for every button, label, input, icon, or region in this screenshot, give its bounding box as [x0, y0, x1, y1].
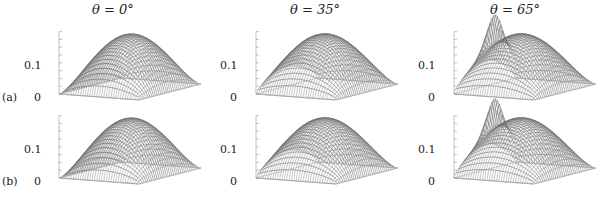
- row-label-a: (a): [2, 91, 17, 104]
- mesh-line-v: [505, 133, 585, 171]
- mesh-line-u: [456, 131, 518, 179]
- surface-plot-b1: [252, 98, 402, 192]
- mesh-line-u: [258, 145, 320, 178]
- tick-label-0.1-b1: 0.1: [220, 143, 238, 156]
- mesh-line-u: [503, 40, 565, 98]
- tick-label-0-b0: 0: [34, 175, 41, 188]
- mesh-line-v: [271, 52, 351, 97]
- surface-plot-a1: [252, 14, 402, 108]
- mesh-line-u: [256, 150, 318, 178]
- tick-label-0.1-a2: 0.1: [418, 59, 436, 72]
- surface-plot-b0: [55, 98, 205, 192]
- surface-plot-a0: [55, 14, 205, 108]
- tick-label-0-b1: 0: [230, 175, 237, 188]
- tick-label-0-a1: 0: [230, 91, 237, 104]
- mesh-line-v: [505, 49, 585, 87]
- tick-label-0.1-a0: 0.1: [24, 59, 42, 72]
- row-label-b: (b): [2, 175, 18, 188]
- tick-label-0-a0: 0: [34, 91, 41, 104]
- mesh-line-u: [503, 124, 565, 182]
- tick-label-0.1-b0: 0.1: [24, 143, 42, 156]
- surface-plot-a2: [450, 14, 600, 108]
- mesh-line-u: [456, 47, 518, 95]
- mesh-line-u: [256, 66, 318, 94]
- tick-label-0-a2: 0: [428, 91, 435, 104]
- mesh-line-v: [271, 136, 351, 181]
- tick-label-0.1-b2: 0.1: [418, 143, 436, 156]
- mesh-line-u: [258, 61, 320, 94]
- surface-plot-b2: [450, 98, 600, 192]
- tick-label-0.1-a1: 0.1: [220, 59, 238, 72]
- tick-label-0-b2: 0: [428, 175, 435, 188]
